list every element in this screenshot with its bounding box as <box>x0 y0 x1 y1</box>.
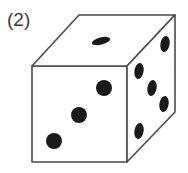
pip <box>46 133 62 149</box>
die-illustration <box>0 0 188 173</box>
figure-container: (2) <box>0 0 188 173</box>
pip <box>96 80 112 96</box>
die-front-face <box>32 66 127 162</box>
pip <box>71 107 87 123</box>
